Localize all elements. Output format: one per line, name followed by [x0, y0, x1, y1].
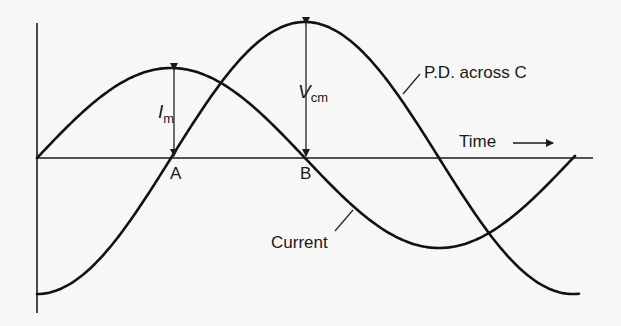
capacitor-waveform-diagram: Im Vcm A B P.D. across C Current Time [0, 0, 621, 326]
pd-label: P.D. across C [424, 63, 527, 82]
im-label: Im [158, 101, 174, 126]
point-a-label: A [170, 164, 182, 183]
current-label: Current [271, 233, 328, 252]
time-label: Time [459, 132, 496, 151]
point-b-label: B [300, 164, 311, 183]
current-leader-line [335, 210, 353, 231]
pd-leader-line [403, 74, 420, 94]
vcm-label: Vcm [298, 81, 328, 105]
